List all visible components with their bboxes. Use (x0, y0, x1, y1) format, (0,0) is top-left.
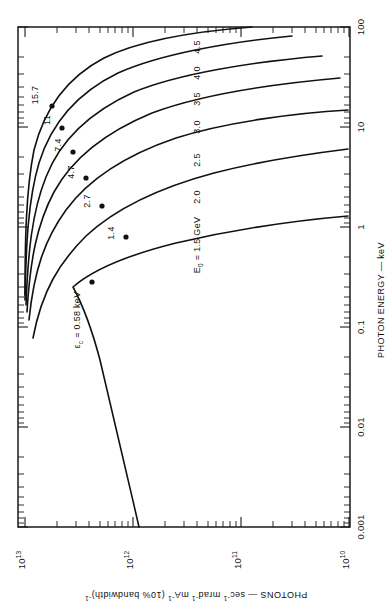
xtick-label-100: 100 (355, 19, 366, 35)
critical-energy-marker-1p5 (89, 279, 94, 284)
critical-energy-marker-4p5 (49, 103, 54, 108)
curve-label-2p5: 2.5 (192, 153, 202, 166)
critical-energy-label-2p7: 2.7 (82, 194, 92, 207)
critical-energy-label-7p4: 7.4 (53, 138, 63, 151)
photon-energy-axis-title: PHOTON ENERGY — keV (376, 242, 386, 358)
critical-energy-marker-3p5 (70, 149, 75, 154)
critical-energy-label-15p7: 15.7 (30, 86, 40, 105)
curve-label-3p0: 3.0 (192, 120, 202, 133)
critical-energy-label-4p7: 4.7 (66, 165, 76, 178)
xtick-label-0p01: 0.01 (355, 417, 366, 436)
critical-energy-label-1p4: 1.4 (106, 226, 116, 239)
curve-label-4p5: 4.5 (192, 40, 202, 53)
curve-label-4p0: 4.0 (192, 66, 202, 79)
xtick-label-0p1: 0.1 (355, 320, 366, 334)
critical-energy-label-11: 11 (42, 115, 52, 125)
critical-energy-marker-2p0 (123, 234, 128, 239)
xtick-label-0p001: 0.001 (355, 515, 366, 540)
curve-label-2p0: 2.0 (192, 190, 202, 203)
curve-label-3p5: 3.5 (192, 92, 202, 105)
critical-energy-marker-4p0 (59, 125, 64, 130)
xtick-label-1: 1 (355, 224, 366, 229)
synchrotron-spectrum-figure: 100 10 1 0.1 0.01 0.001 PHOTON ENERGY — … (0, 0, 392, 611)
xtick-label-10: 10 (355, 122, 366, 133)
critical-energy-marker-2p5 (99, 203, 104, 208)
critical-energy-marker-3p0 (83, 175, 88, 180)
figure-background (0, 0, 392, 611)
